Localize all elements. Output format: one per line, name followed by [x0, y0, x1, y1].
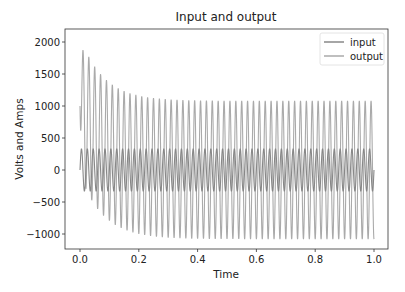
y-tick-label: −1000	[26, 229, 60, 240]
chart-title: Input and output	[176, 10, 277, 24]
y-tick-label: 1500	[35, 69, 60, 80]
legend: input output	[320, 33, 384, 65]
y-tick-label: −500	[33, 197, 60, 208]
x-tick-label: 0.2	[131, 254, 147, 265]
x-tick-label: 1.0	[366, 254, 382, 265]
x-axis: 0.00.20.40.60.81.0	[72, 249, 382, 265]
x-axis-label: Time	[212, 268, 239, 280]
chart: Input and output −1000−50005001000150020…	[0, 0, 405, 292]
legend-output-label: output	[350, 51, 383, 62]
y-tick-label: 500	[41, 133, 60, 144]
x-tick-label: 0.6	[248, 254, 264, 265]
output-series-line	[80, 50, 374, 239]
x-tick-label: 0.4	[190, 254, 206, 265]
y-axis-label: Volts and Amps	[13, 98, 25, 179]
x-tick-label: 0.0	[72, 254, 88, 265]
y-tick-label: 0	[54, 165, 60, 176]
x-tick-label: 0.8	[307, 254, 323, 265]
legend-input-label: input	[350, 37, 376, 48]
y-tick-label: 2000	[35, 37, 60, 48]
y-axis: −1000−5000500100015002000	[26, 37, 65, 240]
y-tick-label: 1000	[35, 101, 60, 112]
input-series-line	[80, 149, 374, 191]
plot-area	[80, 50, 374, 239]
